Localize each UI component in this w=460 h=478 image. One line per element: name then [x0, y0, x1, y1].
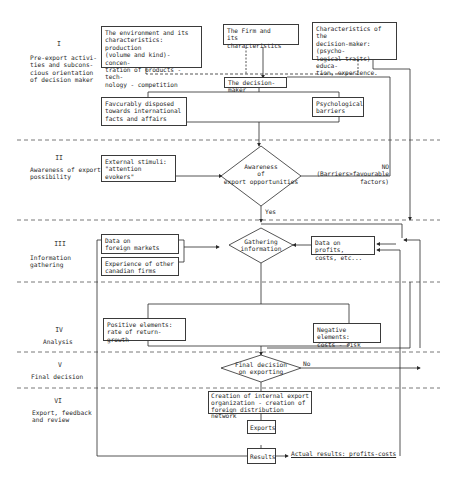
foreign-markets-box: Data on foreign markets — [101, 234, 179, 254]
stage-5-title: Final decision — [31, 373, 83, 380]
firm-box: The Firm and its characteristics — [223, 24, 299, 45]
stage-3-title: Information gathering — [30, 254, 71, 269]
stage-5-number: V — [50, 361, 70, 369]
gathering-decision-label: Gathering information — [229, 238, 293, 253]
no-label: No — [303, 360, 310, 367]
decision-maker-box: The decision-maker — [224, 77, 287, 88]
actual-results-label: Actual results: profits-costs — [291, 450, 396, 457]
stage-6-title: Export, feedback and review — [32, 409, 92, 424]
positive-elements-box: Positive elements: rate of return-growth — [103, 318, 186, 341]
no-barriers-label: NO (Barriers>favourable factors) — [309, 163, 389, 185]
dm-characteristics-box: Characteristics of the decision-maker:(p… — [312, 22, 397, 60]
creation-box: Creation of internal export organization… — [208, 391, 312, 414]
stage-2-title: Awareness of export possibility — [30, 166, 101, 181]
stage-1-number: I — [49, 40, 69, 48]
stage-4-number: IV — [49, 326, 69, 334]
environment-box: The environment and its characteristics:… — [101, 26, 202, 68]
awareness-decision-label: Awareness of export opportunities — [221, 163, 301, 185]
final-decision-label: Final decision on exporting — [221, 361, 301, 376]
stage-2-number: II — [49, 154, 69, 162]
favourably-disposed-box: Favcurably disposed towards internationa… — [101, 97, 187, 126]
exports-box: Exports — [247, 420, 276, 434]
stage-4-title: Analysis — [43, 338, 73, 345]
data-profits-box: Data on profits, costs, etc... — [311, 236, 375, 255]
external-stimuli-box: External stimuli: "attention evokers" — [101, 155, 176, 182]
psych-barriers-box: Psychological barriers — [312, 97, 364, 117]
yes-label: Yes — [265, 208, 276, 215]
stage-6-number: VI — [48, 397, 68, 405]
experience-canadian-box: Experience of other canadian firms — [101, 257, 179, 276]
stage-3-number: III — [50, 240, 70, 248]
stage-1-title: Pre-export activi- ties and subcons- cio… — [30, 54, 97, 84]
negative-elements-box: Negative elements: costs - risk — [313, 323, 381, 343]
results-box: Results — [247, 448, 276, 464]
